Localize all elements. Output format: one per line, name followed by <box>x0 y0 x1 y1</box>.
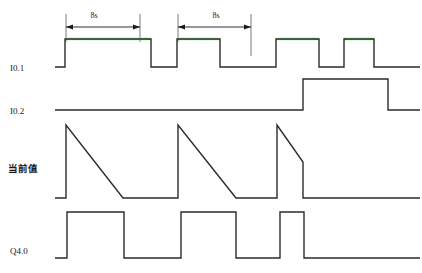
dimension-arrowhead-right <box>244 24 251 29</box>
signal-label-current-value: 当前值 <box>8 163 38 174</box>
dimension-arrowhead-right <box>133 24 140 29</box>
timing-diagram-page: 8s 8s I0.1 I0.2 当前值 <box>0 0 422 273</box>
signal-trace-current-value <box>55 125 420 198</box>
dimension-label-8s-2: 8s <box>212 11 219 20</box>
waveform-q40 <box>55 212 420 258</box>
signal-trace-q40 <box>55 212 420 258</box>
waveform-current-value <box>55 125 420 198</box>
waveform-i01 <box>55 39 420 67</box>
signal-trace-i01 <box>55 39 420 67</box>
dimension-label-8s-1: 8s <box>90 11 97 20</box>
dimension-arrowhead-left <box>66 24 73 29</box>
dimension-arrowhead-left <box>178 24 185 29</box>
signal-label-q40: Q4.0 <box>10 246 28 256</box>
signal-label-i02: I0.2 <box>10 106 24 116</box>
signal-trace-i02 <box>55 79 420 110</box>
waveform-i02 <box>55 79 420 110</box>
dimension-annotation-1: 8s <box>66 11 140 42</box>
dimension-annotation-2: 8s <box>178 11 251 56</box>
signal-label-i01: I0.1 <box>10 63 24 73</box>
timing-diagram-svg: 8s 8s I0.1 I0.2 当前值 <box>0 0 422 273</box>
